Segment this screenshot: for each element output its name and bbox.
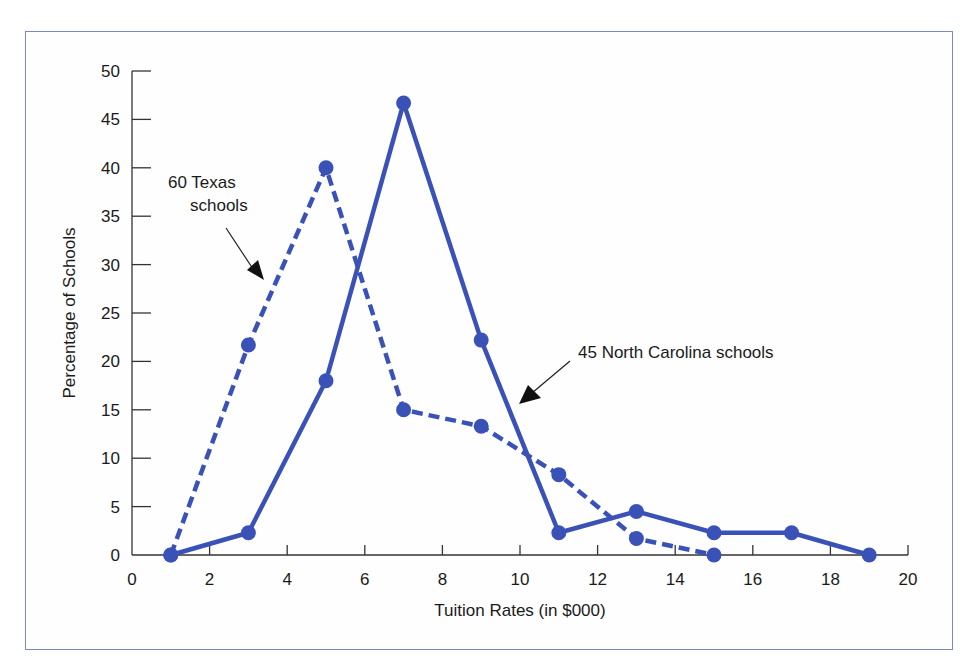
x-tick-label: 12 [588,570,607,589]
x-tick-label: 16 [743,570,762,589]
y-tick-label: 40 [101,159,120,178]
data-point-marker [396,402,411,417]
data-point-marker [784,525,799,540]
x-tick-label: 10 [511,570,530,589]
data-point-marker [241,337,256,352]
texas-arrow-icon [226,228,255,272]
y-tick-label: 5 [111,498,120,517]
y-axis-title: Percentage of Schools [60,227,79,398]
x-tick-label: 14 [666,570,685,589]
x-tick-label: 8 [438,570,447,589]
y-tick-label: 30 [101,256,120,275]
data-point-marker [474,419,489,434]
data-point-marker [163,548,178,563]
data-point-marker [551,467,566,482]
x-tick-label: 18 [821,570,840,589]
x-axis-title: Tuition Rates (in $000) [434,601,605,620]
data-point-marker [629,504,644,519]
x-tick-label: 20 [899,570,918,589]
data-point-marker [629,531,644,546]
nc-arrow-icon [532,361,570,393]
data-point-marker [707,525,722,540]
x-tick-label: 4 [282,570,291,589]
series-group [163,95,876,562]
x-tick-label: 0 [127,570,136,589]
x-tick-label: 2 [205,570,214,589]
data-point-marker [241,525,256,540]
y-tick-label: 35 [101,207,120,226]
nc-annotation: 45 North Carolina schools [578,343,774,362]
data-point-marker [707,548,722,563]
data-point-marker [862,548,877,563]
data-point-marker [474,333,489,348]
line-chart: 0510152025303540455002468101214161820 60… [0,0,974,671]
data-point-marker [319,160,334,175]
annotations: 60 Texas schools 45 North Carolina schoo… [168,173,774,404]
data-point-marker [551,525,566,540]
texas-annotation-line1: 60 Texas [168,173,236,192]
y-tick-label: 15 [101,401,120,420]
y-tick-label: 50 [101,62,120,81]
y-tick-label: 45 [101,110,120,129]
y-tick-label: 10 [101,449,120,468]
y-tick-label: 0 [111,546,120,565]
y-tick-label: 20 [101,352,120,371]
y-tick-label: 25 [101,304,120,323]
nc-series-line [171,103,869,555]
data-point-marker [319,373,334,388]
x-tick-label: 6 [360,570,369,589]
data-point-marker [396,95,411,110]
texas-annotation-line2: schools [190,196,248,215]
axes: 0510152025303540455002468101214161820 [101,62,917,589]
